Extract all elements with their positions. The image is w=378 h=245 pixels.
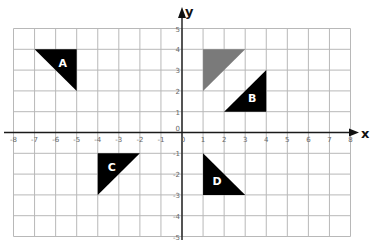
x-tick-label: 8 <box>348 136 352 144</box>
y-tick-label: 4 <box>176 46 181 54</box>
x-tick-label: -7 <box>31 136 38 144</box>
x-tick-label: 5 <box>285 136 289 144</box>
y-tick-label: 2 <box>176 88 180 96</box>
y-tick-label: 1 <box>176 109 180 117</box>
triangle-d-label: D <box>213 175 222 188</box>
x-tick-label: 7 <box>327 136 331 144</box>
x-tick-label: 1 <box>201 136 205 144</box>
x-tick-label: 3 <box>243 136 247 144</box>
triangle-b-label: B <box>248 92 256 105</box>
axes: x y <box>4 4 370 240</box>
shape-labels: ABCD <box>58 57 256 188</box>
x-tick-label: -2 <box>136 136 143 144</box>
x-tick-label: 2 <box>222 136 226 144</box>
x-axis-label: x <box>361 126 370 141</box>
y-tick-label: -1 <box>173 150 180 158</box>
x-tick-label: -5 <box>73 136 80 144</box>
y-tick-label: -3 <box>173 192 180 200</box>
y-tick-label: 5 <box>176 26 180 34</box>
y-axis-label: y <box>185 4 194 19</box>
x-tick-label: -8 <box>10 136 17 144</box>
y-tick-label: -2 <box>173 171 180 179</box>
shapes <box>35 49 267 195</box>
x-tick-label: -1 <box>157 136 164 144</box>
x-tick-label: -3 <box>115 136 122 144</box>
coordinate-grid: x y -8-7-6-5-4-3-2-1012345678-5-4-3-2-11… <box>0 0 378 245</box>
x-tick-label: 6 <box>306 136 311 144</box>
y-tick-label: -4 <box>173 213 181 221</box>
x-tick-label: -6 <box>52 136 60 144</box>
x-tick-label: 0 <box>181 136 185 144</box>
origin-label: 0 <box>176 125 180 133</box>
y-tick-label: 3 <box>176 67 180 75</box>
x-tick-label: -4 <box>94 136 102 144</box>
y-tick-label: -5 <box>173 234 180 242</box>
triangle-a-label: A <box>58 57 67 70</box>
x-tick-label: 4 <box>264 136 269 144</box>
triangle-c-label: C <box>108 161 116 174</box>
